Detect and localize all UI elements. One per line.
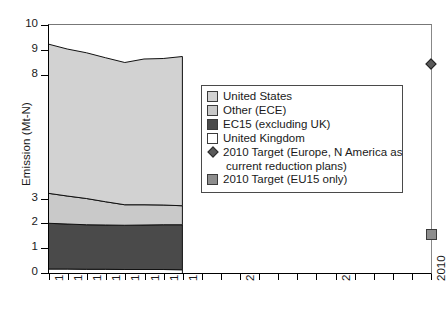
legend-label: EC15 (excluding UK) [223,118,330,131]
x-tick [431,274,432,280]
legend-label: United Kingdom [223,132,305,145]
legend-item: Other (ECE) [207,104,397,117]
x-tick [374,274,375,280]
target-marker-diamond [426,59,437,70]
y-tick [41,25,48,26]
chart-legend: United StatesOther (ECE)EC15 (excluding … [201,85,403,193]
legend-item: United Kingdom [207,132,397,145]
legend-swatch [207,105,218,116]
x-tick [240,274,241,280]
x-tick-label: 2010 [436,255,448,281]
y-tick-label: 9 [4,43,38,55]
x-tick [336,274,337,280]
legend-item: 2010 Target (Europe, N America as [207,146,397,159]
legend-label: United States [223,90,292,103]
legend-label-continuation: current reduction plans) [226,160,397,173]
legend-item: EC15 (excluding UK) [207,118,397,131]
x-tick [412,274,413,280]
y-tick-label: 10 [4,18,38,30]
legend-swatch [207,119,218,130]
legend-swatch [207,174,218,185]
legend-label: 2010 Target (EU15 only) [223,173,347,186]
y-tick [41,273,48,274]
x-tick [125,274,126,280]
x-tick [297,274,298,280]
legend-item: United States [207,90,397,103]
y-tick-label: 2 [4,216,38,228]
y-tick-label: 8 [4,68,38,80]
y-tick [41,199,48,200]
y-tick [41,50,48,51]
x-tick [259,274,260,280]
legend-rows: United StatesOther (ECE)EC15 (excluding … [207,90,397,186]
legend-item: 2010 Target (EU15 only) [207,173,397,186]
y-tick [41,223,48,224]
area-band [49,44,182,206]
x-tick [183,274,184,280]
x-tick [87,274,88,280]
x-tick [145,274,146,280]
x-tick [68,274,69,280]
legend-label: 2010 Target (Europe, N America as [223,146,402,159]
legend-swatch [207,133,218,144]
legend-diamond-icon [207,146,220,159]
x-tick [393,274,394,280]
x-tick [49,274,50,280]
legend-label: Other (ECE) [223,104,286,117]
x-tick [278,274,279,280]
x-tick [316,274,317,280]
x-tick [221,274,222,280]
y-tick [41,75,48,76]
area-band [49,223,182,270]
x-tick [164,274,165,280]
y-tick-label: 0 [4,266,38,278]
y-tick-label: 1 [4,241,38,253]
y-tick [41,248,48,249]
y-tick-label: 3 [4,192,38,204]
legend-swatch [207,91,218,102]
x-tick [106,274,107,280]
x-tick [202,274,203,280]
x-tick [355,274,356,280]
target-marker-square [426,229,437,240]
